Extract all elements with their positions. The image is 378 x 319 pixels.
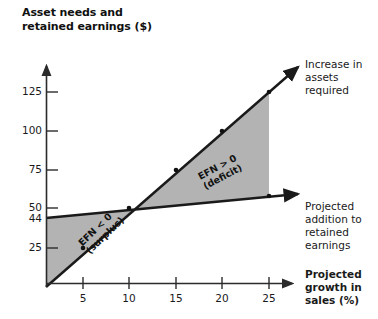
data-point bbox=[220, 129, 225, 134]
data-point bbox=[267, 90, 272, 95]
y-tick-label-75: 75 bbox=[0, 163, 42, 175]
y-tick-label-25: 25 bbox=[0, 241, 42, 253]
x-tick-label-25: 25 bbox=[254, 292, 284, 304]
x-tick-label-15: 15 bbox=[161, 292, 191, 304]
data-point bbox=[267, 194, 272, 199]
y-tick-label-100: 100 bbox=[0, 124, 42, 136]
x-axis-title: Projected growth in sales (%) bbox=[305, 268, 378, 307]
x-tick-label-5: 5 bbox=[68, 292, 98, 304]
y-tick-label-44: 44 bbox=[0, 212, 42, 224]
y-tick-label-125: 125 bbox=[0, 85, 42, 97]
data-point bbox=[127, 206, 132, 211]
note-retained-earnings: Projected addition to retained earnings bbox=[305, 200, 378, 252]
x-tick-label-20: 20 bbox=[207, 292, 237, 304]
note-assets-required: Increase in assets required bbox=[305, 58, 378, 97]
data-point bbox=[174, 168, 179, 173]
x-tick-label-10: 10 bbox=[114, 292, 144, 304]
